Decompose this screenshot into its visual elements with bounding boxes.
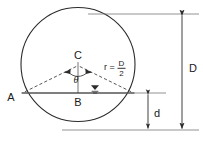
- label-diameter: D: [189, 62, 197, 74]
- label-radius-expression: r =: [104, 62, 115, 72]
- diagram-canvas: A B C θ r = D 2 D d: [0, 0, 203, 145]
- fraction-numerator: D: [119, 59, 125, 68]
- label-point-b: B: [74, 96, 81, 108]
- water-level-symbol: [91, 85, 99, 93]
- label-point-a: A: [7, 91, 15, 103]
- cross-section-diagram: A B C θ r = D 2 D d: [0, 0, 203, 145]
- fraction-denominator: 2: [119, 69, 124, 78]
- label-depth: d: [154, 107, 160, 119]
- label-angle-theta: θ: [74, 74, 79, 85]
- radius-fraction: D 2: [118, 59, 126, 78]
- label-point-c: C: [74, 49, 82, 61]
